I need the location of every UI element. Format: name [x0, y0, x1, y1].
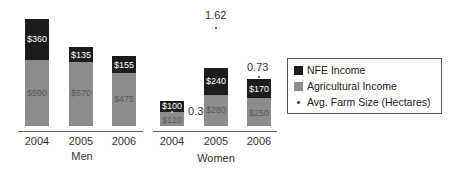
- nfe-value-label: $170: [247, 84, 271, 94]
- agricultural-value-label: $280: [204, 105, 228, 115]
- men-tick-2005: 2005: [61, 135, 101, 147]
- farm-size-label-women-2005: 1.62: [205, 9, 226, 21]
- agricultural-value-label: $590: [25, 88, 49, 98]
- bar-men-2004: $360 $590: [25, 19, 49, 126]
- bar-men-2005: $135 $570: [69, 47, 93, 126]
- nfe-swatch-icon: [294, 66, 303, 75]
- men-tick-2006: 2006: [104, 135, 144, 147]
- income-chart: $360 $590 $135 $570 $155 $475 $100 $120 …: [0, 0, 454, 173]
- farm-size-label-women-2006: 0.73: [247, 61, 268, 73]
- agricultural-value-label: $570: [69, 88, 93, 98]
- men-group-label: Men: [42, 150, 122, 162]
- farm-size-marker-women-2006: [258, 76, 260, 78]
- men-tick-2004: 2004: [17, 135, 57, 147]
- women-tick-2004: 2004: [152, 135, 192, 147]
- nfe-value-label: $100: [160, 101, 184, 111]
- farm-size-marker-women-2004: [171, 111, 173, 113]
- women-tick-2006: 2006: [239, 135, 279, 147]
- nfe-value-label: $155: [112, 60, 136, 70]
- farm-size-marker-women-2005: [215, 27, 217, 29]
- nfe-value-label: $240: [204, 76, 228, 86]
- legend-label: Agricultural Income: [307, 80, 397, 92]
- dot-marker-icon: •: [294, 96, 303, 110]
- legend-item-nfe: NFE Income: [294, 63, 365, 77]
- women-group-label: Women: [176, 152, 256, 164]
- agricultural-swatch-icon: [294, 82, 303, 91]
- agricultural-value-label: $250: [247, 108, 271, 118]
- bar-men-2006: $155 $475: [112, 56, 136, 126]
- legend-item-farm-size: •Avg. Farm Size (Hectares): [294, 95, 431, 109]
- legend-item-agricultural: Agricultural Income: [294, 79, 397, 93]
- men-x-axis: [18, 131, 143, 132]
- bar-women-2004: $100 $120: [160, 101, 184, 126]
- bar-women-2005: $240 $280: [204, 68, 228, 126]
- legend-label: NFE Income: [307, 64, 365, 76]
- legend-label: Avg. Farm Size (Hectares): [307, 96, 431, 108]
- bar-women-2006: $170 $250: [247, 79, 271, 126]
- agricultural-value-label: $475: [112, 94, 136, 104]
- women-x-axis: [153, 131, 277, 132]
- nfe-value-label: $135: [69, 50, 93, 60]
- chart-legend: NFE Income Agricultural Income •Avg. Far…: [287, 58, 442, 114]
- women-tick-2005: 2005: [196, 135, 236, 147]
- nfe-value-label: $360: [25, 34, 49, 44]
- agricultural-value-label: $120: [160, 115, 184, 125]
